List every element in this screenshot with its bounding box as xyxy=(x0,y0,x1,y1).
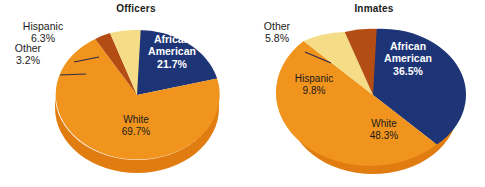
label-african-american-inmates: African American 36.5% xyxy=(372,40,444,77)
label-hispanic-inmates: Hispanic 9.8% xyxy=(283,73,345,97)
label-white-officers: White 69.7% xyxy=(105,114,167,138)
label-hispanic-inmates-pct: 9.8% xyxy=(283,85,345,97)
pie-chart-officers: Officers xyxy=(0,0,242,187)
callout-other-inmates-pct: 5.8% xyxy=(251,32,303,44)
callout-other-officers: Other 3.2% xyxy=(2,42,54,66)
callout-other-officers-pct: 3.2% xyxy=(2,54,54,66)
label-african-american-inmates-line1: African xyxy=(372,40,444,52)
label-white-officers-pct: 69.7% xyxy=(105,126,167,138)
label-african-american-officers-line2: American xyxy=(138,45,206,57)
label-white-officers-name: White xyxy=(105,114,167,126)
two-pie-chart-figure: Officers xyxy=(0,0,485,187)
label-african-american-officers-pct: 21.7% xyxy=(138,58,206,70)
callout-other-inmates: Other 5.8% xyxy=(251,20,303,44)
callout-hispanic-officers-name: Hispanic xyxy=(12,20,74,32)
label-hispanic-inmates-name: Hispanic xyxy=(283,73,345,85)
label-white-inmates: White 48.3% xyxy=(353,118,415,142)
pie-chart-inmates: Inmates xyxy=(243,0,485,187)
label-white-inmates-name: White xyxy=(353,118,415,130)
label-african-american-inmates-line2: American xyxy=(372,52,444,64)
callout-other-inmates-name: Other xyxy=(251,20,303,32)
label-african-american-officers-line1: African xyxy=(138,33,206,45)
callout-other-officers-name: Other xyxy=(2,42,54,54)
label-white-inmates-pct: 48.3% xyxy=(353,130,415,142)
callout-hispanic-officers: Hispanic 6.3% xyxy=(12,20,74,44)
label-african-american-officers: African American 21.7% xyxy=(138,33,206,70)
label-african-american-inmates-pct: 36.5% xyxy=(372,65,444,77)
